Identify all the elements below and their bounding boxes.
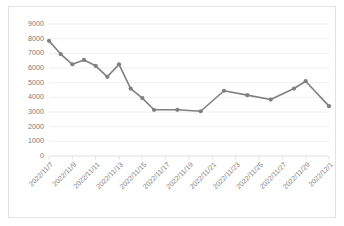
data-point-marker — [327, 104, 331, 108]
data-point-marker — [292, 86, 296, 90]
y-axis-tick-label: 9000 — [28, 19, 44, 28]
data-point-marker — [199, 109, 203, 113]
data-point-marker — [152, 108, 156, 112]
chart-frame: 0100020003000400050006000700080009000 20… — [8, 6, 336, 218]
gridlines-group — [49, 24, 329, 156]
data-point-marker — [129, 86, 133, 90]
data-point-marker — [304, 79, 308, 83]
x-axis-tick-label: 2022/12/1 — [307, 161, 334, 188]
y-axis-tick-labels: 0100020003000400050006000700080009000 — [28, 19, 44, 160]
y-axis-tick-label: 1000 — [28, 136, 44, 145]
data-series-group — [47, 39, 331, 114]
data-point-marker — [222, 89, 226, 93]
data-point-marker — [59, 52, 63, 56]
y-axis-tick-label: 2000 — [28, 122, 44, 131]
x-axis-tickmarks — [49, 156, 329, 160]
data-point-marker — [105, 75, 109, 79]
x-axis-tick-label: 2022/11/7 — [28, 161, 55, 188]
series-line — [49, 41, 329, 111]
line-chart: 0100020003000400050006000700080009000 20… — [9, 7, 335, 217]
y-axis-tick-label: 6000 — [28, 63, 44, 72]
series-markers-group — [47, 39, 331, 114]
data-point-marker — [175, 108, 179, 112]
x-axis-tick-labels: 2022/11/72022/11/92022/11/112022/11/1320… — [28, 161, 335, 190]
data-point-marker — [140, 96, 144, 100]
chart-plot-area: 0100020003000400050006000700080009000 20… — [9, 7, 335, 217]
data-point-marker — [82, 58, 86, 62]
y-axis-tick-label: 5000 — [28, 78, 44, 87]
data-point-marker — [47, 39, 51, 43]
y-axis-tick-label: 0 — [40, 151, 44, 160]
y-axis-tick-label: 7000 — [28, 48, 44, 57]
data-point-marker — [117, 62, 121, 66]
y-axis-tick-label: 8000 — [28, 34, 44, 43]
y-axis-tick-label: 3000 — [28, 107, 44, 116]
data-point-marker — [269, 97, 273, 101]
data-point-marker — [245, 93, 249, 97]
data-point-marker — [94, 64, 98, 68]
y-axis-tick-label: 4000 — [28, 92, 44, 101]
data-point-marker — [70, 62, 74, 66]
